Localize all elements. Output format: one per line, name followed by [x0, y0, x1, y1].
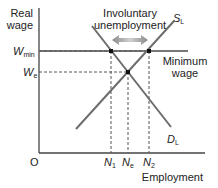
min-wage-label-line1: Minimum: [163, 55, 208, 67]
n2-label: N2: [143, 156, 155, 169]
annotation-line1: Involuntary: [103, 7, 157, 19]
labor-market-diagram: Real wage Wmin We O N1 Ne N2 Employment …: [0, 0, 218, 188]
y-axis-label-line1: Real: [10, 7, 33, 19]
point-n1: [109, 49, 113, 53]
x-axis-label: Employment: [142, 171, 203, 183]
demand-label: DL: [167, 133, 179, 146]
min-wage-label-line2: wage: [171, 67, 198, 79]
point-n2: [147, 49, 151, 53]
n1-label: N1: [104, 156, 116, 169]
origin-label: O: [30, 156, 39, 168]
point-equilibrium: [126, 70, 130, 74]
w-e-label: We: [23, 66, 37, 79]
w-min-label: Wmin: [13, 45, 35, 58]
supply-label: SL: [173, 12, 184, 25]
y-axis-label-line2: wage: [6, 19, 33, 31]
annotation-line2: unemployment: [94, 19, 166, 31]
ne-label: Ne: [122, 156, 134, 169]
unemployment-double-arrow-icon: [112, 35, 148, 45]
